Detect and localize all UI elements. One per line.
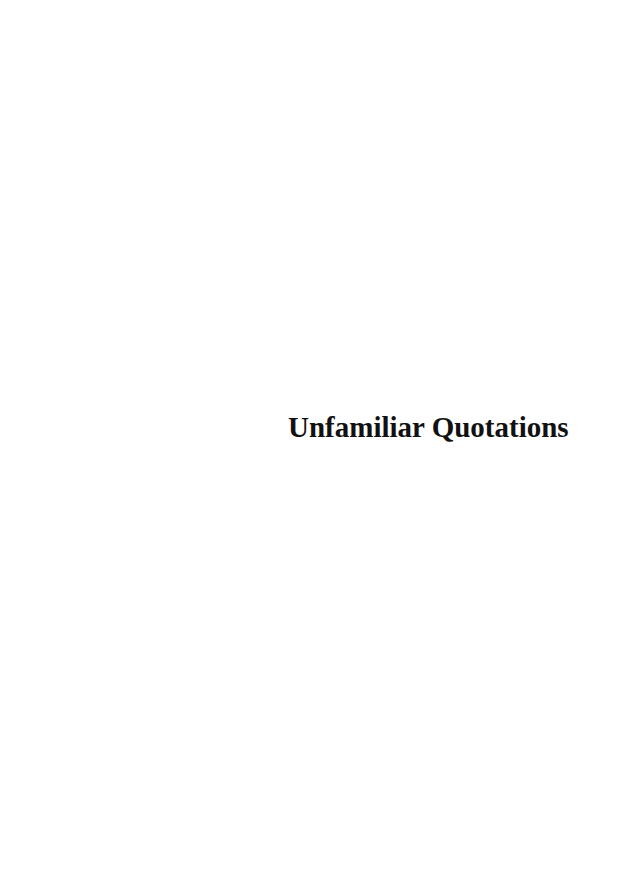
book-title: Unfamiliar Quotations <box>288 411 569 443</box>
title-page: Unfamiliar Quotations <box>0 0 627 880</box>
